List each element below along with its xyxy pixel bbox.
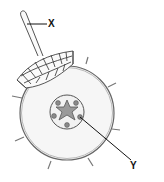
label-y: Y xyxy=(130,161,137,171)
label-x: X xyxy=(48,19,55,29)
long-root-hair xyxy=(21,11,43,56)
root-cross-section-diagram xyxy=(0,0,164,182)
